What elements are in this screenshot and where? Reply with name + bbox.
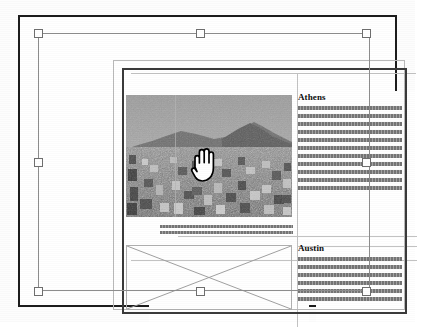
handle-top-center[interactable] bbox=[196, 29, 205, 38]
handle-middle-left[interactable] bbox=[34, 158, 43, 167]
handle-middle-right[interactable] bbox=[362, 158, 371, 167]
handle-bottom-right[interactable] bbox=[362, 287, 371, 296]
open-hand-grab-cursor bbox=[189, 147, 219, 183]
handle-top-left[interactable] bbox=[34, 29, 43, 38]
handle-bottom-center[interactable] bbox=[196, 287, 205, 296]
handle-top-right[interactable] bbox=[362, 29, 371, 38]
handle-bottom-left[interactable] bbox=[34, 287, 43, 296]
